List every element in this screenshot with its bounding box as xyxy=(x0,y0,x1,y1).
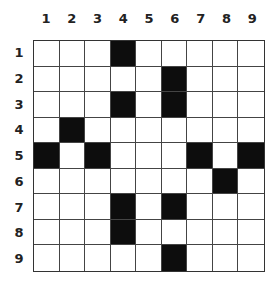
column-label-8: 8 xyxy=(213,11,239,26)
white-cell[interactable] xyxy=(238,41,264,67)
white-cell[interactable] xyxy=(34,169,60,195)
white-cell[interactable] xyxy=(187,67,213,93)
white-cell[interactable] xyxy=(60,245,86,271)
white-cell[interactable] xyxy=(111,169,137,195)
black-cell xyxy=(111,220,137,246)
row-label-3: 3 xyxy=(12,92,26,118)
white-cell[interactable] xyxy=(111,67,137,93)
white-cell[interactable] xyxy=(187,245,213,271)
white-cell[interactable] xyxy=(238,67,264,93)
white-cell[interactable] xyxy=(238,118,264,144)
white-cell[interactable] xyxy=(111,245,137,271)
white-cell[interactable] xyxy=(213,194,239,220)
row-label-8: 8 xyxy=(12,220,26,246)
column-label-1: 1 xyxy=(33,11,59,26)
white-cell[interactable] xyxy=(213,92,239,118)
row-label-1: 1 xyxy=(12,40,26,66)
white-cell[interactable] xyxy=(213,67,239,93)
row-label-7: 7 xyxy=(12,195,26,221)
row-label-2: 2 xyxy=(12,66,26,92)
black-cell xyxy=(60,118,86,144)
white-cell[interactable] xyxy=(85,220,111,246)
white-cell[interactable] xyxy=(136,67,162,93)
white-cell[interactable] xyxy=(34,245,60,271)
column-label-7: 7 xyxy=(188,11,214,26)
white-cell[interactable] xyxy=(111,143,137,169)
white-cell[interactable] xyxy=(213,118,239,144)
white-cell[interactable] xyxy=(60,67,86,93)
white-cell[interactable] xyxy=(60,220,86,246)
white-cell[interactable] xyxy=(60,169,86,195)
white-cell[interactable] xyxy=(187,169,213,195)
column-label-5: 5 xyxy=(136,11,162,26)
white-cell[interactable] xyxy=(85,118,111,144)
white-cell[interactable] xyxy=(187,41,213,67)
white-cell[interactable] xyxy=(136,169,162,195)
white-cell[interactable] xyxy=(213,245,239,271)
white-cell[interactable] xyxy=(136,245,162,271)
white-cell[interactable] xyxy=(34,220,60,246)
white-cell[interactable] xyxy=(187,118,213,144)
row-label-6: 6 xyxy=(12,169,26,195)
white-cell[interactable] xyxy=(136,118,162,144)
column-label-9: 9 xyxy=(239,11,265,26)
white-cell[interactable] xyxy=(238,194,264,220)
white-cell[interactable] xyxy=(187,220,213,246)
white-cell[interactable] xyxy=(162,143,188,169)
column-label-3: 3 xyxy=(85,11,111,26)
white-cell[interactable] xyxy=(162,220,188,246)
white-cell[interactable] xyxy=(60,41,86,67)
black-cell xyxy=(213,169,239,195)
white-cell[interactable] xyxy=(85,245,111,271)
white-cell[interactable] xyxy=(34,92,60,118)
black-cell xyxy=(162,245,188,271)
black-cell xyxy=(162,194,188,220)
white-cell[interactable] xyxy=(34,67,60,93)
white-cell[interactable] xyxy=(136,220,162,246)
black-cell xyxy=(111,194,137,220)
black-cell xyxy=(162,67,188,93)
white-cell[interactable] xyxy=(238,169,264,195)
white-cell[interactable] xyxy=(60,143,86,169)
black-cell xyxy=(238,143,264,169)
black-cell xyxy=(111,92,137,118)
white-cell[interactable] xyxy=(34,118,60,144)
white-cell[interactable] xyxy=(162,41,188,67)
white-cell[interactable] xyxy=(136,143,162,169)
white-cell[interactable] xyxy=(85,92,111,118)
white-cell[interactable] xyxy=(213,220,239,246)
row-label-5: 5 xyxy=(12,143,26,169)
row-label-4: 4 xyxy=(12,117,26,143)
white-cell[interactable] xyxy=(111,118,137,144)
white-cell[interactable] xyxy=(238,245,264,271)
white-cell[interactable] xyxy=(60,194,86,220)
white-cell[interactable] xyxy=(85,194,111,220)
column-label-2: 2 xyxy=(59,11,85,26)
white-cell[interactable] xyxy=(34,41,60,67)
white-cell[interactable] xyxy=(238,220,264,246)
black-cell xyxy=(85,143,111,169)
column-label-6: 6 xyxy=(162,11,188,26)
white-cell[interactable] xyxy=(136,194,162,220)
white-cell[interactable] xyxy=(34,194,60,220)
white-cell[interactable] xyxy=(136,92,162,118)
white-cell[interactable] xyxy=(187,194,213,220)
white-cell[interactable] xyxy=(136,41,162,67)
black-cell xyxy=(111,41,137,67)
column-label-4: 4 xyxy=(110,11,136,26)
crossword-grid xyxy=(33,40,265,272)
white-cell[interactable] xyxy=(187,92,213,118)
white-cell[interactable] xyxy=(85,67,111,93)
white-cell[interactable] xyxy=(85,41,111,67)
row-label-9: 9 xyxy=(12,246,26,272)
white-cell[interactable] xyxy=(85,169,111,195)
black-cell xyxy=(34,143,60,169)
white-cell[interactable] xyxy=(213,143,239,169)
white-cell[interactable] xyxy=(213,41,239,67)
black-cell xyxy=(187,143,213,169)
black-cell xyxy=(162,92,188,118)
white-cell[interactable] xyxy=(238,92,264,118)
white-cell[interactable] xyxy=(162,118,188,144)
white-cell[interactable] xyxy=(162,169,188,195)
white-cell[interactable] xyxy=(60,92,86,118)
